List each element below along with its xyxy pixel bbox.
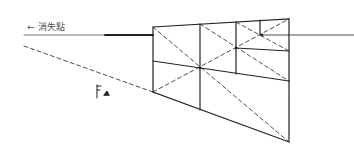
center-point	[199, 67, 202, 70]
eighth-point	[261, 34, 264, 37]
perspective-diagram	[0, 0, 354, 151]
diagonal-2	[153, 19, 289, 92]
middle-horizontal	[153, 61, 289, 81]
diagonal-4	[236, 22, 289, 51]
vanishing-dashed-line	[24, 46, 153, 92]
figure-mark-icon	[97, 85, 109, 98]
quarter-point	[235, 47, 238, 50]
diagonal-3	[200, 24, 289, 81]
diagonal-1	[153, 27, 289, 142]
quarter-horizontal	[236, 48, 289, 51]
